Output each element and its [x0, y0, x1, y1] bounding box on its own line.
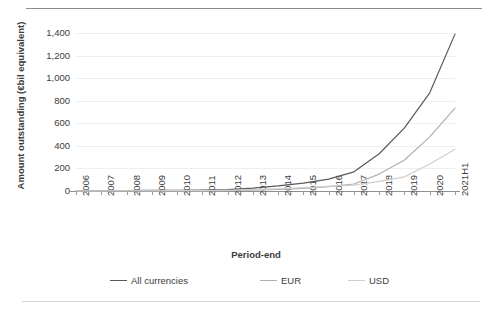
series-line — [76, 34, 455, 191]
legend-item[interactable]: All currencies — [110, 275, 188, 286]
bottom-divider-rule — [22, 301, 480, 302]
legend-line-swatch — [348, 280, 365, 281]
legend-line-swatch — [260, 280, 277, 281]
legend-label: EUR — [281, 275, 301, 286]
chart-figure: Amount outstanding (€bil equivalent) Per… — [0, 0, 484, 313]
legend-item[interactable]: USD — [348, 275, 389, 286]
series-lines-group — [0, 0, 484, 313]
legend-line-swatch — [110, 280, 127, 281]
series-line — [76, 149, 455, 191]
chart-legend: All currenciesEURUSD — [110, 275, 410, 291]
legend-item[interactable]: EUR — [260, 275, 301, 286]
legend-label: USD — [369, 275, 389, 286]
legend-label: All currencies — [131, 275, 188, 286]
